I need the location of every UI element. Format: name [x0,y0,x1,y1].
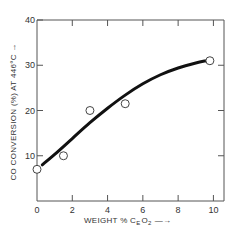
y-axis-title: CO CONVERSION (%) AT 446°C → [9,43,18,180]
x-tick-label: 10 [208,205,218,215]
x-axis-title-main: WEIGHT % C [84,216,136,225]
x-axis-title-sub-2: 2 [148,220,152,226]
x-tick-label: 4 [105,205,110,215]
axis-ticks [37,20,224,201]
x-axis-title: WEIGHT % CEO2—→ [84,216,171,226]
points-layer [33,57,214,174]
x-tick-label: 6 [140,205,145,215]
y-tick-label: 40 [25,15,35,25]
curve-layer [42,61,206,165]
y-tick-label: 30 [25,60,35,70]
data-point [86,107,94,115]
data-point [33,165,41,173]
x-axis-title-sub-e: E [136,220,140,226]
chart: 024681010203040 CO CONVERSION (%) AT 446… [0,0,239,236]
data-point [59,152,67,160]
plot-frame [37,20,224,201]
tick-labels: 024681010203040 [25,15,218,215]
data-point [206,57,214,65]
x-tick-label: 0 [34,205,39,215]
fitted-curve-line [42,61,206,165]
y-tick-label: 20 [25,106,35,116]
x-tick-label: 8 [176,205,181,215]
x-tick-label: 2 [70,205,75,215]
x-axis-title-arrow: —→ [155,216,172,225]
y-tick-label: 10 [25,151,35,161]
data-point [121,100,129,108]
